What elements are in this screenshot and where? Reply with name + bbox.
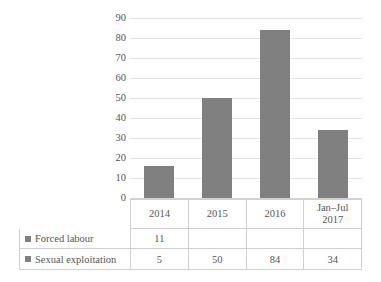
table-cell: 34 xyxy=(304,249,361,269)
y-axis-tick-label: 60 xyxy=(116,73,127,84)
table-row: Sexual exploitation 5 50 84 34 xyxy=(20,249,361,269)
bar xyxy=(260,30,290,198)
bar-slot xyxy=(188,18,246,198)
y-axis-tick-label: 50 xyxy=(116,93,127,104)
table-cell xyxy=(247,229,305,248)
x-axis-category-label: Jan–Jul 2017 xyxy=(303,200,362,228)
x-axis-category-label: 2014 xyxy=(130,200,188,228)
y-axis-tick-label: 20 xyxy=(116,153,127,164)
y-axis: 90 80 70 60 50 40 30 20 10 0 xyxy=(104,18,126,198)
bar-slot xyxy=(130,18,188,198)
plot-area: 90 80 70 60 50 40 30 20 10 0 xyxy=(0,0,381,208)
series-legend-forced-labour: Forced labour xyxy=(20,229,131,248)
y-axis-tick-label: 10 xyxy=(116,173,127,184)
table-cell: 11 xyxy=(131,229,189,248)
series-label: Sexual exploitation xyxy=(35,254,116,265)
x-axis-category-row: 2014 2015 2016 Jan–Jul 2017 xyxy=(130,199,362,229)
bar xyxy=(318,130,348,198)
table-row: Forced labour 11 xyxy=(20,229,361,249)
table-cell: 5 xyxy=(131,249,189,269)
bar-series xyxy=(130,18,362,198)
series-legend-sexual-exploitation: Sexual exploitation xyxy=(20,249,131,269)
legend-swatch-icon xyxy=(25,256,31,262)
y-axis-tick-label: 40 xyxy=(116,113,127,124)
y-axis-tick-label: 90 xyxy=(116,13,127,24)
x-axis-category-label: 2015 xyxy=(188,200,246,228)
bar-slot xyxy=(246,18,304,198)
table-cell: 84 xyxy=(247,249,305,269)
bar-slot xyxy=(304,18,362,198)
table-cell: 50 xyxy=(189,249,247,269)
bar-chart-with-data-table: 90 80 70 60 50 40 30 20 10 0 xyxy=(0,0,381,282)
x-axis-category-label: 2016 xyxy=(246,200,304,228)
table-cell xyxy=(304,229,361,248)
series-label: Forced labour xyxy=(35,233,94,244)
y-axis-tick-label: 80 xyxy=(116,33,127,44)
data-table: Forced labour 11 Sexual exploitation 5 5… xyxy=(19,229,362,270)
bar xyxy=(202,98,232,198)
bar xyxy=(144,166,174,198)
y-axis-tick-label: 0 xyxy=(121,193,126,204)
legend-swatch-icon xyxy=(25,236,31,242)
y-axis-tick-label: 70 xyxy=(116,53,127,64)
y-axis-tick-label: 30 xyxy=(116,133,127,144)
table-cell xyxy=(189,229,247,248)
